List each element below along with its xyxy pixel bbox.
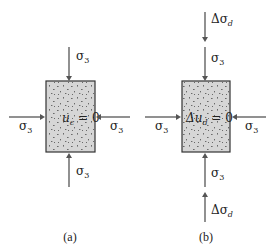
arrow-head-icon [40, 114, 45, 120]
top-arrow-b [202, 47, 208, 81]
arrow-head-icon [202, 153, 208, 158]
arrow-head-icon [202, 37, 208, 42]
bottom-stress-label-a: σ3 [76, 164, 89, 180]
arrow-head-icon [176, 114, 181, 120]
arrow-head-icon [202, 76, 208, 81]
pore-pressure-label-a: uc = 0 [62, 111, 100, 127]
arrow-head-icon [202, 192, 208, 197]
bottom-deviator-arrow-b [202, 192, 208, 222]
arrow-head-icon [66, 153, 72, 158]
bottom-arrow-b [202, 153, 208, 187]
bottom-deviator-label-b: Δσd [211, 203, 233, 219]
pore-pressure-label-b: Δud = 0 [185, 111, 233, 127]
bottom-arrow-a [66, 153, 72, 187]
triaxial-test-diagram: uc = 0 σ3 σ3 σ3 σ3 (a) [0, 0, 276, 252]
panel-a: uc = 0 σ3 σ3 σ3 σ3 (a) [9, 47, 130, 244]
bottom-stress-label-b: σ3 [211, 166, 224, 182]
top-stress-label-a: σ3 [76, 49, 89, 65]
right-stress-label-a: σ3 [110, 119, 123, 135]
top-arrow-a [66, 47, 72, 81]
top-stress-label-b: σ3 [211, 51, 224, 67]
arrow-head-icon [66, 76, 72, 81]
top-deviator-label-b: Δσd [211, 12, 233, 28]
right-stress-label-b: σ3 [245, 119, 258, 135]
left-stress-label-b: σ3 [155, 119, 168, 135]
caption-a: (a) [63, 230, 76, 244]
panel-b: Δud = 0 Δσd σ3 σ3 Δσd σ3 [145, 12, 266, 244]
caption-b: (b) [199, 230, 213, 244]
left-stress-label-a: σ3 [19, 119, 32, 135]
top-deviator-arrow-b [202, 12, 208, 42]
